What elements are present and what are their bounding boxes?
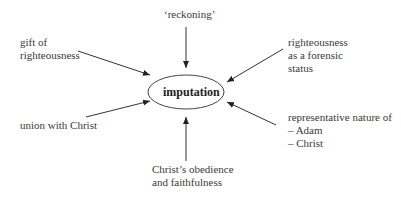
node-text: ‘reckoning’ — [164, 8, 215, 21]
node-text: gift of — [20, 36, 80, 49]
node-text: union with Christ — [20, 119, 97, 132]
node-text: – Adam — [288, 124, 392, 137]
node-text: Christ’s obedience — [152, 163, 234, 176]
node-obedience: Christ’s obedience and faithfulness — [152, 163, 234, 189]
center-label: imputation — [163, 85, 220, 100]
arrow-gift — [78, 51, 150, 75]
arrow-union — [86, 101, 150, 117]
arrow-representative — [227, 102, 276, 125]
node-text: righteousness — [288, 36, 348, 49]
node-text: righteousness — [20, 49, 80, 62]
node-text: representative nature of — [288, 111, 392, 124]
node-gift: gift of righteousness — [20, 36, 80, 62]
node-text: and faithfulness — [152, 176, 234, 189]
node-text: status — [288, 62, 348, 75]
node-text: – Christ — [288, 137, 392, 150]
node-reckoning: ‘reckoning’ — [164, 8, 215, 21]
node-representative: representative nature of – Adam – Christ — [288, 111, 392, 150]
node-text: as a forensic — [288, 49, 348, 62]
node-forensic: righteousness as a forensic status — [288, 36, 348, 75]
arrow-forensic — [227, 49, 283, 82]
node-union: union with Christ — [20, 119, 97, 132]
